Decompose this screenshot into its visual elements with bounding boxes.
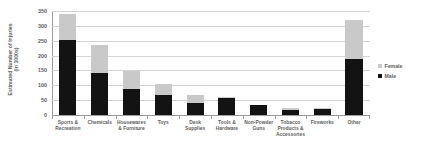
x-axis-tick-mark [338,115,370,119]
bar-stack[interactable] [155,84,172,115]
x-axis-tick-mark [306,115,338,119]
y-axis-tick-label: 200 [38,53,47,59]
bar-slot [52,11,84,115]
x-axis-tick-mark [52,115,84,119]
x-axis-category-label: DeskSupplies [179,120,211,149]
x-axis-tick-marks [52,115,370,119]
bar-stack[interactable] [59,14,76,115]
legend-item[interactable]: Female [378,62,428,69]
bar-segment-male[interactable] [155,95,172,116]
bar-stack[interactable] [345,20,362,115]
bar-stack[interactable] [123,71,140,115]
bar-segment-female[interactable] [123,71,140,89]
x-axis-category-labels: Sports &RecreationChemicalsHousewares& F… [52,120,370,149]
legend-item[interactable]: Male [378,72,428,79]
y-axis-tick-label: 350 [38,8,47,14]
y-axis-tick-label: 0 [44,112,47,118]
bar-slot [179,11,211,115]
y-axis-tick-label: 150 [38,67,47,73]
x-axis-category-label: Chemicals [84,120,116,149]
bar-segment-male[interactable] [187,103,204,115]
x-axis-tick-mark [116,115,148,119]
legend-label: Male [385,73,397,79]
y-axis-title: Estimated Number of Injuries (in 1000s) [0,0,26,118]
bar-segment-male[interactable] [91,73,108,115]
x-axis-category-label: Toys [147,120,179,149]
bar-slot [275,11,307,115]
bar-stack[interactable] [218,97,235,115]
chart-legend: FemaleMale [378,62,428,82]
x-axis-category-label: Other [338,120,370,149]
bar-segment-male[interactable] [345,59,362,115]
bar-stack[interactable] [250,105,267,115]
plot-area [52,11,370,115]
x-axis-tick-mark [84,115,116,119]
bar-segment-female[interactable] [91,45,108,73]
bar-segment-male[interactable] [218,98,235,115]
bar-stack[interactable] [282,108,299,115]
bar-segment-male[interactable] [123,89,140,115]
x-axis-tick-mark [147,115,179,119]
bar-segment-female[interactable] [345,20,362,60]
bar-slot [147,11,179,115]
bar-slot [211,11,243,115]
legend-swatch [378,64,382,68]
x-axis-category-label: Tools &Hardware [211,120,243,149]
bar-segment-male[interactable] [250,105,267,115]
bar-slot [306,11,338,115]
x-axis-tick-mark [243,115,275,119]
bar-stack[interactable] [91,45,108,115]
x-axis-tick-mark [179,115,211,119]
x-axis-category-label: Housewares& Furniture [116,120,148,149]
x-axis-category-label: Sports &Recreation [52,120,84,149]
bar-slot [243,11,275,115]
bar-segment-female[interactable] [155,84,172,95]
bar-segment-female[interactable] [187,95,204,102]
bar-slot [84,11,116,115]
x-axis-category-label: Non-PowderGuns [243,120,275,149]
x-axis-category-label: Fireworks [306,120,338,149]
bar-stack[interactable] [187,95,204,115]
x-axis-tick-mark [211,115,243,119]
x-axis-category-label: TobaccoProducts &Accessories [275,120,307,149]
y-axis-tick-labels: 050100150200250300350 [26,11,50,115]
bar-chart: Estimated Number of Injuries (in 1000s) … [0,0,429,149]
x-axis-tick-mark [275,115,307,119]
y-axis-tick-label: 100 [38,82,47,88]
y-axis-tick-label: 50 [41,97,47,103]
bar-slot [338,11,370,115]
y-axis-title-line-2: (in 1000s) [13,23,19,95]
legend-swatch [378,74,382,78]
bar-stack[interactable] [314,108,331,115]
bar-series-group [52,11,370,115]
y-axis-tick-label: 250 [38,38,47,44]
y-axis-tick-label: 300 [38,23,47,29]
bar-segment-female[interactable] [59,14,76,40]
legend-label: Female [385,63,403,69]
bar-slot [116,11,148,115]
bar-segment-male[interactable] [59,40,76,115]
